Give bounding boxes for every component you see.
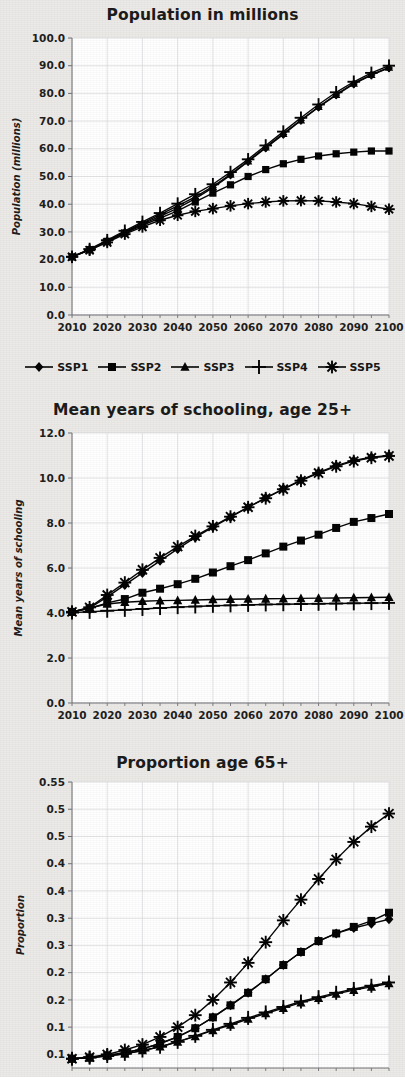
y-axis-title: Mean years of schooling [13,499,24,636]
y-tick-label: 2.0 [46,652,65,664]
x-tick-label: 2070 [269,321,298,333]
y-tick-label: 6.0 [46,562,65,574]
legend-item-ssp5[interactable]: SSP5 [317,359,381,375]
legend-item-label: SSP4 [277,361,308,374]
legend-item-label: SSP3 [203,361,234,374]
y-tick-label: 60.0 [39,142,65,154]
y-axis-title: Proportion [15,895,26,955]
legend-item-label: SSP5 [350,361,381,374]
x-tick-label: 2010 [57,709,86,721]
chart-population: 0.010.020.030.040.050.060.070.080.090.01… [0,24,405,349]
x-tick-label: 2050 [198,709,227,721]
chart-title-schooling: Mean years of schooling, age 25+ [0,395,405,419]
y-tick-label: 80.0 [39,87,65,99]
x-tick-label: 2040 [163,321,192,333]
x-tick-label: 2060 [233,709,262,721]
x-tick-label: 2030 [128,321,157,333]
legend-item-label: SSP2 [130,361,161,374]
diamond-marker-icon [24,359,54,375]
y-tick-label: 0.2 [46,966,65,978]
x-tick-label: 2100 [374,321,403,333]
y-tick-label: 40.0 [39,198,65,210]
x-tick-label: 2090 [339,321,368,333]
legend-item-ssp1[interactable]: SSP1 [24,359,88,375]
x-tick-label: 2020 [93,709,122,721]
legend-item-ssp2[interactable]: SSP2 [97,359,161,375]
x-tick-label: 2070 [269,709,298,721]
y-tick-label: 0.2 [46,994,65,1006]
x-tick-label: 2030 [128,709,157,721]
y-tick-label: 0.4 [46,857,65,869]
y-tick-label: 10.0 [39,281,65,293]
y-tick-label: 12.0 [39,427,65,439]
y-tick-label: 70.0 [39,115,65,127]
y-tick-label: 0.1 [46,1048,65,1060]
x-tick-label: 2090 [339,709,368,721]
x-tick-label: 2080 [304,709,333,721]
x-tick-label: 2060 [233,321,262,333]
y-tick-label: 100.0 [32,32,65,44]
x-tick-label: 2050 [198,321,227,333]
x-tick-label: 2100 [374,709,403,721]
y-tick-label: 0.3 [46,939,65,951]
plus-marker-icon [244,359,274,375]
y-tick-label: 0.1 [46,1021,65,1033]
x-tick-label: 2080 [304,321,333,333]
legend-item-ssp4[interactable]: SSP4 [244,359,308,375]
asterisk-marker-icon [317,359,347,375]
x-tick-label: 2040 [163,709,192,721]
triangle-marker-icon [170,359,200,375]
chart-panel-schooling: Mean years of schooling, age 25+ 0.02.04… [0,395,405,740]
chart-title-proportion65: Proportion age 65+ [0,740,405,772]
y-tick-label: 0.0 [46,697,65,709]
chart-panel-population: Population in millions 0.010.020.030.040… [0,0,405,355]
legend-item-ssp3[interactable]: SSP3 [170,359,234,375]
y-tick-label: 0.55 [39,776,65,788]
y-tick-label: 0.0 [46,309,65,321]
legend-item-label: SSP1 [57,361,88,374]
y-tick-label: 0.4 [46,885,65,897]
y-tick-label: 30.0 [39,226,65,238]
chart-panel-proportion65: Proportion age 65+ 0.10.10.20.20.30.30.4… [0,740,405,1077]
y-tick-label: 0.5 [46,803,65,815]
chart-proportion65: 0.10.10.20.20.30.30.40.40.50.50.55Propor… [0,772,405,1072]
square-marker-icon [97,359,127,375]
x-tick-label: 2010 [57,321,86,333]
chart-legend: SSP1SSP2SSP3SSP4SSP5 [0,355,405,395]
chart-schooling: 0.02.04.06.08.010.012.020102020203020402… [0,419,405,737]
y-tick-label: 50.0 [39,170,65,182]
x-tick-label: 2020 [93,321,122,333]
y-tick-label: 0.5 [46,830,65,842]
y-tick-label: 4.0 [46,607,65,619]
y-tick-label: 90.0 [39,59,65,71]
y-tick-label: 0.3 [46,912,65,924]
chart-title-population: Population in millions [0,0,405,24]
y-tick-label: 20.0 [39,253,65,265]
y-axis-title: Population (millions) [11,118,22,236]
y-tick-label: 8.0 [46,517,65,529]
y-tick-label: 10.0 [39,472,65,484]
